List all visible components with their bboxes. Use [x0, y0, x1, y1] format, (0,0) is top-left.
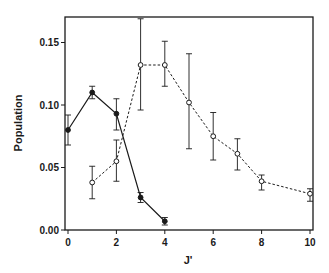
- chart: 0.000.050.100.15 0246810 J' Population: [0, 0, 329, 273]
- open-point: [211, 134, 216, 139]
- open-point: [114, 159, 119, 164]
- open-point: [259, 179, 264, 184]
- x-tick-label: 0: [65, 237, 71, 248]
- y-axis: 0.000.050.100.15: [40, 37, 65, 236]
- x-axis-label: J': [184, 254, 193, 266]
- y-tick-label: 0.05: [40, 162, 60, 173]
- x-tick-label: 10: [304, 237, 316, 248]
- x-tick-label: 4: [162, 237, 168, 248]
- x-tick-label: 6: [210, 237, 216, 248]
- x-tick-label: 2: [114, 237, 120, 248]
- open-point: [187, 100, 192, 105]
- x-tick-label: 8: [259, 237, 265, 248]
- y-tick-label: 0.15: [40, 37, 60, 48]
- open-point: [90, 180, 95, 185]
- filled-point: [162, 219, 167, 224]
- series-line: [92, 65, 310, 194]
- filled-point: [114, 111, 119, 116]
- y-tick-label: 0.00: [40, 225, 60, 236]
- filled-point: [90, 90, 95, 95]
- open-point: [308, 191, 313, 196]
- series-open: [89, 19, 313, 202]
- open-point: [162, 63, 167, 68]
- y-tick-label: 0.10: [40, 100, 60, 111]
- y-axis-label: Population: [12, 94, 24, 151]
- open-point: [138, 63, 143, 68]
- filled-point: [138, 195, 143, 200]
- series-layer: [65, 19, 313, 225]
- x-axis: 0246810: [65, 230, 316, 248]
- filled-point: [66, 128, 71, 133]
- open-point: [235, 151, 240, 156]
